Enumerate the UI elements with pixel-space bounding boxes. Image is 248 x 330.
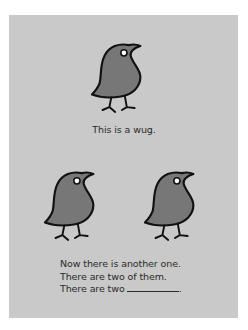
prompt-line-3: There are two. [60, 283, 182, 296]
prompt-line-1: Now there is another one. [60, 258, 182, 271]
wug-bird-right [143, 170, 205, 244]
wug-bird-single [90, 42, 152, 116]
blank-period: . [179, 283, 182, 294]
wug-bird-left [43, 170, 105, 244]
prompt-line-3-text: There are two [60, 283, 125, 294]
wug-bird-icon [90, 42, 152, 116]
caption-this-is-a-wug: This is a wug. [0, 124, 248, 135]
prompt-paragraph: Now there is another one. There are two … [60, 258, 182, 296]
fill-in-blank [127, 283, 179, 292]
prompt-line-2: There are two of them. [60, 271, 182, 284]
wug-bird-icon [43, 170, 105, 244]
wug-bird-icon [143, 170, 205, 244]
